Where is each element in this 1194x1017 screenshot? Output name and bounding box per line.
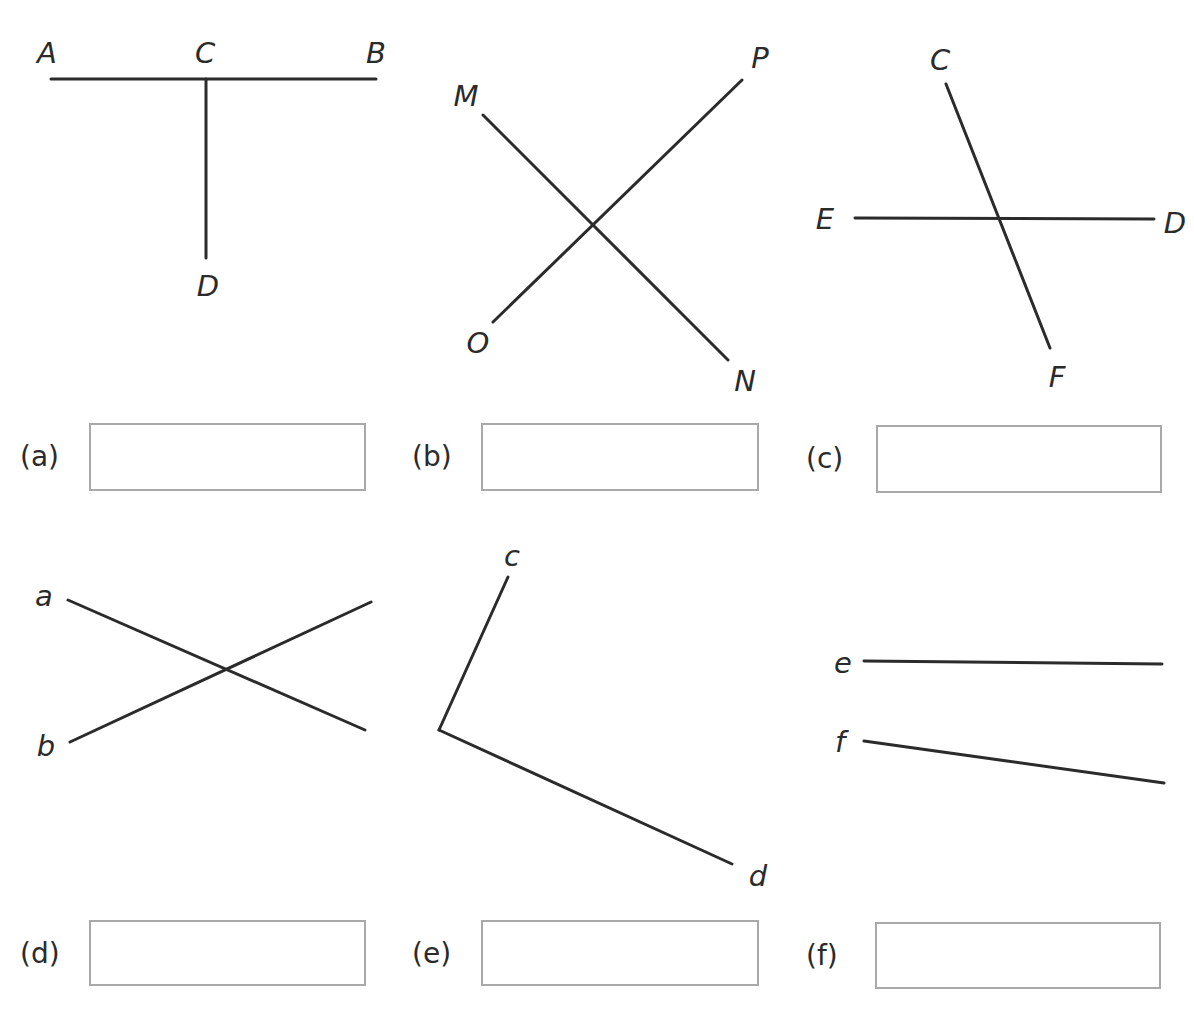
diagram-c: CEDF xyxy=(816,43,1186,394)
line-segment xyxy=(946,84,1050,348)
point-label: d xyxy=(749,859,768,893)
point-label: C xyxy=(195,36,216,70)
line-segment xyxy=(864,661,1162,664)
point-label: b xyxy=(37,729,55,763)
diagram-b: MPON xyxy=(453,41,769,398)
diagram-f: ef xyxy=(834,646,1164,783)
point-label: M xyxy=(453,79,478,113)
line-segment xyxy=(493,80,742,322)
diagram-e: cd xyxy=(439,539,768,893)
point-label: P xyxy=(751,41,769,75)
part-label-c: (c) xyxy=(806,442,843,475)
line-segment xyxy=(70,602,371,742)
answer-box-b[interactable] xyxy=(481,423,759,491)
line-segment xyxy=(483,115,728,360)
answer-box-c[interactable] xyxy=(876,425,1162,493)
line-segment xyxy=(864,741,1164,783)
point-label: e xyxy=(834,646,852,680)
point-label: A xyxy=(35,36,57,70)
point-label: f xyxy=(835,725,849,759)
point-label: C xyxy=(930,43,951,77)
line-segment xyxy=(439,577,508,730)
point-label: D xyxy=(1164,206,1186,240)
answer-box-f[interactable] xyxy=(875,922,1161,989)
line-segment xyxy=(68,600,365,730)
point-label: O xyxy=(467,326,490,360)
part-label-b: (b) xyxy=(412,440,452,473)
part-label-a: (a) xyxy=(20,440,59,473)
answer-box-e[interactable] xyxy=(481,920,759,986)
diagram-d: ab xyxy=(35,579,371,763)
point-label: a xyxy=(35,579,53,613)
part-label-f: (f) xyxy=(806,939,838,972)
answer-box-d[interactable] xyxy=(89,920,366,986)
part-label-e: (e) xyxy=(412,937,451,970)
line-segment xyxy=(855,218,1154,219)
line-diagrams: ACBDMPONCEDFabcdef xyxy=(0,0,1194,1017)
point-label: N xyxy=(734,364,756,398)
point-label: E xyxy=(816,202,835,236)
point-label: c xyxy=(504,539,520,573)
part-label-d: (d) xyxy=(20,937,60,970)
point-label: F xyxy=(1049,360,1067,394)
line-segment xyxy=(439,730,732,864)
point-label: B xyxy=(366,36,386,70)
point-label: D xyxy=(197,269,219,303)
diagram-a: ACBD xyxy=(35,36,386,303)
answer-box-a[interactable] xyxy=(89,423,366,491)
